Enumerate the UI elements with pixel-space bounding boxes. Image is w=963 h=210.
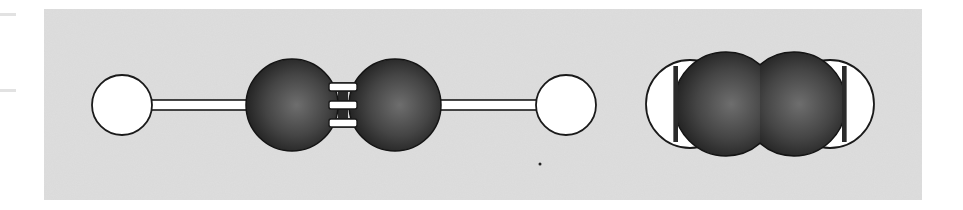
triple-bond-front — [329, 83, 357, 127]
molecule-diagram — [0, 0, 963, 210]
hydrogen-atom-right — [536, 75, 596, 135]
single-bond-left — [146, 100, 256, 110]
space-filling-model — [646, 52, 874, 156]
carbon-atom-right — [349, 59, 441, 151]
hydrogen-atom-left — [92, 75, 152, 135]
stray-dot — [539, 163, 542, 166]
carbon-atom-left — [246, 59, 338, 151]
single-bond-right — [430, 100, 542, 110]
